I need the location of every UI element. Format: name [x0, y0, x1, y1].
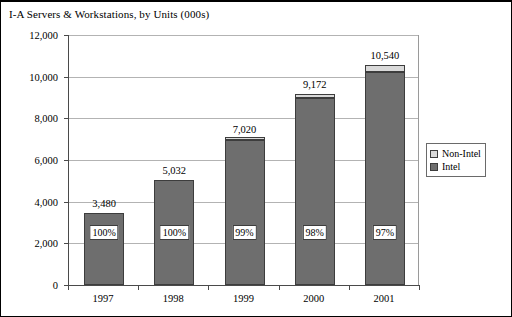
y-axis-tick-label: 10,000: [0, 71, 58, 82]
bar-segment-intel[interactable]: [225, 140, 265, 285]
legend-item-label: Non-Intel: [442, 148, 481, 159]
chart-page: I-A Servers & Workstations, by Units (00…: [0, 0, 512, 317]
intel-share-label: 100%: [160, 225, 189, 240]
legend-item-label: Intel: [442, 161, 460, 172]
y-axis-tick-label: 6,000: [0, 155, 58, 166]
chart-title: I-A Servers & Workstations, by Units (00…: [9, 8, 209, 20]
x-axis-tick-label: 1999: [214, 293, 274, 304]
intel-share-label: 99%: [232, 225, 256, 240]
bar-segment-intel[interactable]: [295, 98, 335, 285]
chart-legend: Non-IntelIntel: [426, 143, 486, 177]
bar-value-label: 7,020: [233, 124, 257, 135]
y-axis-tick-label: 12,000: [0, 30, 58, 41]
bar-segment-intel[interactable]: [84, 213, 124, 286]
bar-group[interactable]: 7,02099%: [225, 35, 265, 285]
legend-swatch-intel: [430, 163, 438, 171]
plot-area: 3,480100%5,032100%7,02099%9,17298%10,540…: [68, 35, 419, 285]
bar-value-label: 9,172: [303, 79, 327, 90]
x-axis-tick-label: 1998: [143, 293, 203, 304]
bar-value-label: 10,540: [370, 50, 399, 61]
legend-item[interactable]: Intel: [430, 160, 481, 173]
bar-group[interactable]: 5,032100%: [154, 35, 194, 285]
bar-group[interactable]: 9,17298%: [295, 35, 335, 285]
bar-segment-non-intel[interactable]: [365, 65, 405, 72]
x-axis-tick-label: 2000: [284, 293, 344, 304]
y-axis-tick-label: 0: [0, 280, 58, 291]
bars-container: 3,480100%5,032100%7,02099%9,17298%10,540…: [69, 35, 418, 285]
x-axis: 19971998199920002001: [68, 285, 419, 317]
intel-share-label: 100%: [89, 225, 118, 240]
intel-share-label: 98%: [303, 225, 327, 240]
y-axis-tick-label: 2,000: [0, 238, 58, 249]
bar-segment-intel[interactable]: [365, 72, 405, 285]
bar-group[interactable]: 3,480100%: [84, 35, 124, 285]
bar-value-label: 3,480: [92, 198, 116, 209]
x-axis-tick-label: 2001: [354, 293, 414, 304]
bar-value-label: 5,032: [162, 165, 186, 176]
y-axis-tick-label: 4,000: [0, 196, 58, 207]
legend-item[interactable]: Non-Intel: [430, 147, 481, 160]
x-axis-tick-label: 1997: [73, 293, 133, 304]
bar-group[interactable]: 10,54097%: [365, 35, 405, 285]
bar-segment-non-intel[interactable]: [295, 94, 335, 98]
y-axis-tick-label: 8,000: [0, 113, 58, 124]
intel-share-label: 97%: [373, 225, 397, 240]
x-tick-mark: [419, 285, 420, 290]
bar-segment-non-intel[interactable]: [225, 137, 265, 140]
x-axis-line: [68, 285, 419, 286]
legend-swatch-non-intel: [430, 150, 438, 158]
